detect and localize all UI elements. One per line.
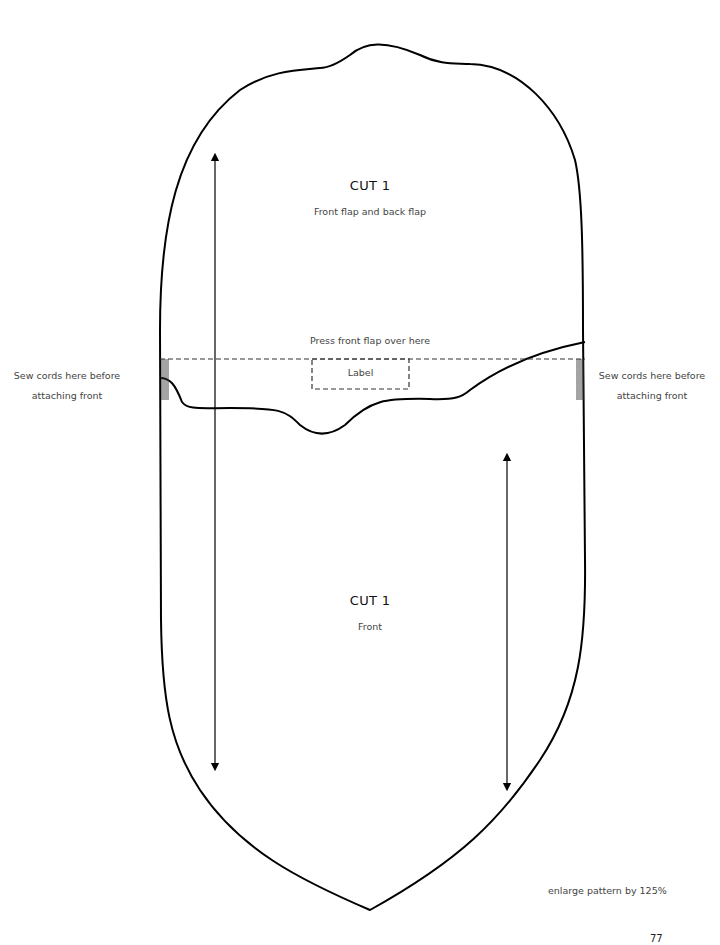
label-box-text: Label [312, 367, 409, 378]
upper-cut-title: CUT 1 [310, 178, 430, 193]
pattern-drawing [0, 0, 720, 945]
pattern-outline [160, 44, 585, 910]
cord-marks-right [577, 359, 583, 400]
enlarge-note: enlarge pattern by 125% [548, 885, 667, 896]
page-number: 77 [650, 933, 663, 944]
lower-cut-title: CUT 1 [310, 593, 430, 608]
lower-cut-subtitle: Front [310, 621, 430, 632]
right-cord-note: Sew cords here before attaching front [597, 366, 707, 406]
front-seam-line [160, 342, 585, 434]
fold-line-label: Press front flap over here [290, 335, 450, 346]
upper-cut-subtitle: Front flap and back flap [290, 206, 450, 217]
left-cord-note: Sew cords here before attaching front [12, 366, 122, 406]
